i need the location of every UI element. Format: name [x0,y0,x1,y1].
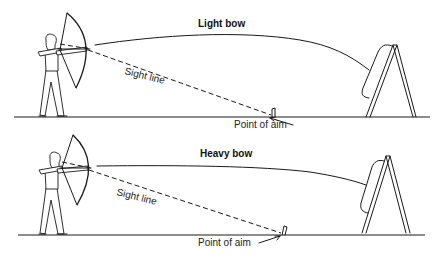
aim-marker-icon [282,226,287,235]
archer-head [50,152,60,168]
diagram-canvas: Light bow Sight line Point of aim [0,0,440,261]
sight-line [88,50,271,115]
point-of-aim-label: Point of aim [198,237,251,248]
stand-front-leg [366,45,397,117]
sight-line-label: Sight line [116,186,159,207]
panel-title: Heavy bow [200,148,252,159]
bow-string-upper [62,135,73,168]
stand-back-leg [393,45,416,117]
panel-heavy-bow: Heavy bow Sight line Point of aim [18,135,425,248]
bow-string-lower [62,168,77,205]
panel-title: Light bow [198,18,245,29]
aim-marker-icon [272,108,275,117]
stand-back-leg [386,156,410,233]
target-stand-icon [361,156,410,233]
archer-head [46,34,56,50]
trajectory-curve [97,166,366,185]
archery-diagram: Light bow Sight line Point of aim [0,0,440,261]
archer-figure [38,34,87,116]
stand-front-leg [362,156,390,233]
sight-line-label: Sight line [124,65,167,86]
sight-line [89,170,281,233]
trajectory-curve [95,35,369,70]
bow-string-lower [60,50,76,88]
panel-light-bow: Light bow Sight line Point of aim [14,13,430,130]
aim-pointer-arrow-icon [259,236,280,243]
archer-legs [40,188,64,234]
target-stand-icon [362,45,416,117]
archer-legs [40,70,64,116]
